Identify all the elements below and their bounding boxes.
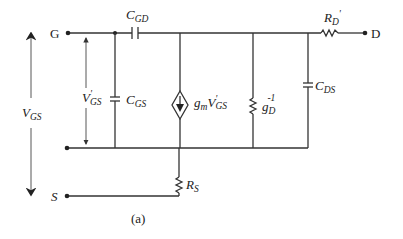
gd-label: gD-1 [262, 93, 276, 116]
resistor-gd [250, 33, 256, 148]
cgs-label: CGS [126, 92, 147, 109]
vgs-internal-label: V'GS [82, 89, 102, 107]
cgd-label: CGD [126, 7, 149, 24]
capacitor-cgs [110, 33, 120, 148]
rs-label: RS [185, 177, 199, 194]
gate-label: G [50, 26, 59, 41]
source-terminal-dot [65, 194, 70, 199]
rd-label: RD' [323, 9, 342, 27]
gm-label: gmV'GS [194, 94, 227, 112]
drain-terminal-dot [363, 31, 368, 36]
resistor-rs [176, 148, 182, 196]
vgs-label: VGS [22, 105, 42, 122]
source-label: S [51, 189, 58, 204]
cds-label: CDS [315, 78, 336, 95]
capacitor-cds [303, 33, 313, 148]
resistor-rd [321, 30, 338, 36]
figure-caption: (a) [131, 211, 145, 226]
internal-source-dot [65, 146, 70, 151]
circuit-diagram: G CGD RD' D CGS gmV'GS gD-1 [0, 0, 403, 239]
capacitor-cgd [132, 27, 138, 39]
drain-label: D [371, 26, 380, 41]
dependent-current-source [172, 33, 188, 148]
gate-terminal-dot [66, 31, 71, 36]
